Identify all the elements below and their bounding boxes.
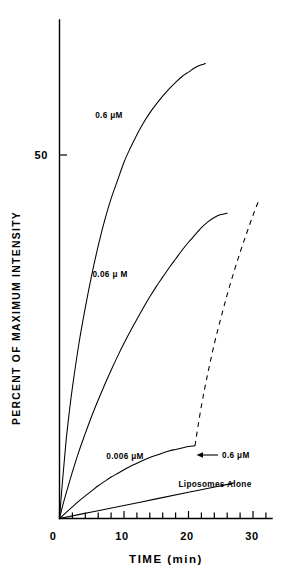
series-label-0-06-micromolar: 0.06 μ M	[92, 270, 127, 279]
curve-0-06-micromolar	[60, 213, 228, 518]
series-label-liposomes-alone: Liposomes Alone	[178, 480, 251, 489]
x-tick-label-20: 20	[180, 530, 193, 542]
curve-0-6-micromolar	[60, 63, 206, 518]
y-tick-label-50: 50	[35, 149, 48, 161]
x-tick-label-10: 10	[115, 530, 128, 542]
curve-0-6-micromolar-added-dashed	[195, 199, 260, 446]
chart-page: 0 10 20 30 50 TIME (min) PERCENT OF MAXI…	[0, 0, 288, 573]
annotation-arrow	[197, 452, 219, 457]
y-axis-title: PERCENT OF MAXIMUM INTENSITY	[11, 211, 22, 425]
series-label-arrow-0-6-micromolar: 0.6 μM	[222, 451, 250, 460]
x-tick-label-30: 30	[245, 530, 258, 542]
x-axis-title: TIME (min)	[129, 553, 203, 565]
fluorescence-kinetics-chart: 0 10 20 30 50 TIME (min) PERCENT OF MAXI…	[0, 0, 288, 573]
series-label-0-006-micromolar: 0.006 μM	[106, 452, 143, 461]
series-label-0-6-micromolar: 0.6 μM	[95, 111, 123, 120]
x-tick-label-0: 0	[50, 530, 57, 542]
